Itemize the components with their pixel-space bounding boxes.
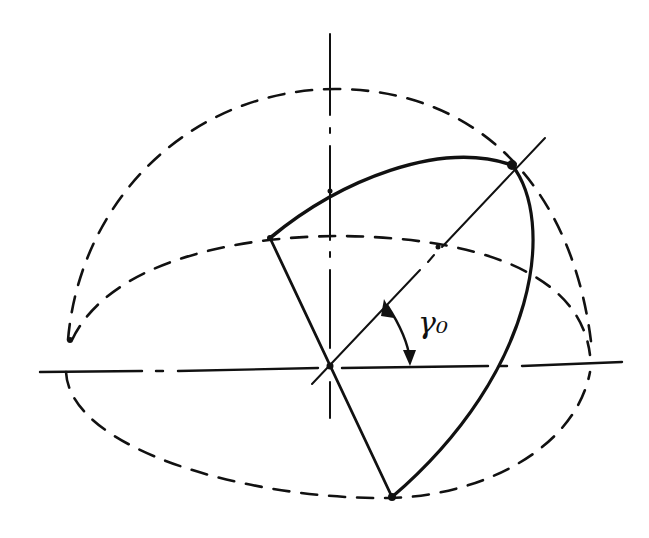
axis-crossing-point bbox=[328, 189, 333, 194]
triangle-right-arc bbox=[392, 165, 533, 497]
angle-label-gamma0: γ₀ bbox=[418, 308, 448, 338]
angle-arrowhead-lower-icon bbox=[403, 350, 416, 366]
equator-left-point bbox=[67, 337, 73, 343]
diagonal-axis bbox=[312, 138, 545, 384]
center-point bbox=[327, 363, 334, 370]
vertex-top bbox=[507, 160, 517, 170]
spherical-triangle-diagram bbox=[0, 0, 649, 538]
angle-arrowhead-upper-icon bbox=[381, 299, 394, 318]
vertex-left bbox=[267, 235, 273, 241]
vertex-bottom bbox=[388, 493, 396, 501]
equator-front-half bbox=[66, 372, 590, 498]
equator-diagonal-crossing bbox=[436, 245, 441, 250]
triangle-upper-arc bbox=[270, 157, 512, 238]
